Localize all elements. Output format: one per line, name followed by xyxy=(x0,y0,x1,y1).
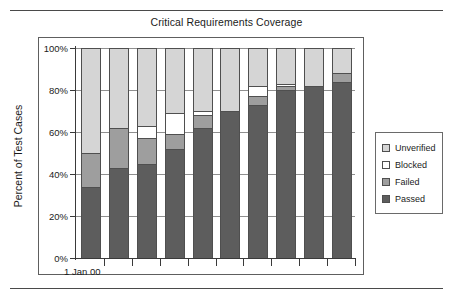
bar-stack[interactable] xyxy=(109,48,129,258)
page-rule-top xyxy=(10,10,443,11)
y-axis-tick-labels: 0%20%40%60%80%100% xyxy=(22,0,68,301)
bar-stack[interactable] xyxy=(165,48,185,258)
bar-segment-unverified[interactable] xyxy=(165,48,185,113)
bar-stack[interactable] xyxy=(193,48,213,258)
legend-swatch-icon xyxy=(382,178,390,186)
bar-segment-passed[interactable] xyxy=(193,128,213,258)
legend-label: Unverified xyxy=(395,143,436,153)
y-axis-tick-mark xyxy=(70,216,75,217)
x-axis-tick-mark xyxy=(299,259,300,266)
bar-segment-blocked[interactable] xyxy=(165,113,185,134)
bar-segment-failed[interactable] xyxy=(193,115,213,128)
legend-item-passed[interactable]: Passed xyxy=(382,190,438,207)
legend-item-blocked[interactable]: Blocked xyxy=(382,156,438,173)
x-axis-tick-mark xyxy=(160,259,161,266)
y-axis-tick-label: 100% xyxy=(24,43,68,54)
bar-segment-passed[interactable] xyxy=(137,164,157,259)
x-axis-tick-mark xyxy=(132,259,133,266)
x-axis-tick-mark xyxy=(355,259,356,266)
plot-area xyxy=(76,48,355,258)
x-axis-caption: 1 Jan 00 xyxy=(64,266,100,277)
legend-label: Blocked xyxy=(395,160,427,170)
y-axis-tick-mark xyxy=(70,258,75,259)
legend-item-failed[interactable]: Failed xyxy=(382,173,438,190)
legend-item-unverified[interactable]: Unverified xyxy=(382,139,438,156)
bar-segment-passed[interactable] xyxy=(109,168,129,258)
legend-label: Failed xyxy=(395,177,420,187)
bar-segment-passed[interactable] xyxy=(165,149,185,258)
bar-segment-unverified[interactable] xyxy=(137,48,157,126)
x-axis-tick-mark xyxy=(188,259,189,266)
bar-stack[interactable] xyxy=(81,48,101,258)
y-axis-line xyxy=(75,46,76,260)
y-axis-tick-label: 80% xyxy=(24,85,68,96)
legend-swatch-icon xyxy=(382,144,390,152)
x-axis-tick-mark xyxy=(243,259,244,266)
bar-segment-passed[interactable] xyxy=(276,90,296,258)
y-axis-tick-label: 0% xyxy=(24,253,68,264)
bar-segment-passed[interactable] xyxy=(332,82,352,258)
y-axis-tick-mark xyxy=(70,90,75,91)
bar-segment-failed[interactable] xyxy=(109,128,129,168)
x-axis-tick-mark xyxy=(327,259,328,266)
bar-segment-passed[interactable] xyxy=(220,111,240,258)
bar-stack[interactable] xyxy=(248,48,268,258)
bar-segment-failed[interactable] xyxy=(165,134,185,149)
bar-segment-unverified[interactable] xyxy=(304,48,324,86)
bar-segment-unverified[interactable] xyxy=(193,48,213,111)
bar-segment-unverified[interactable] xyxy=(81,48,101,153)
bar-segment-failed[interactable] xyxy=(137,138,157,163)
bar-segment-blocked[interactable] xyxy=(248,86,268,97)
y-axis-tick-label: 40% xyxy=(24,169,68,180)
x-axis-tick-mark xyxy=(271,259,272,266)
bar-segment-unverified[interactable] xyxy=(109,48,129,128)
bar-segment-unverified[interactable] xyxy=(332,48,352,73)
bar-segment-passed[interactable] xyxy=(248,105,268,258)
bar-segment-unverified[interactable] xyxy=(248,48,268,86)
bar-segment-failed[interactable] xyxy=(248,96,268,104)
bar-stack[interactable] xyxy=(332,48,352,258)
page-rule-bottom xyxy=(10,288,443,289)
y-axis-tick-label: 20% xyxy=(24,211,68,222)
bar-segment-blocked[interactable] xyxy=(137,126,157,139)
bar-segment-unverified[interactable] xyxy=(220,48,240,111)
y-axis-tick-mark xyxy=(70,132,75,133)
bar-stack[interactable] xyxy=(304,48,324,258)
y-axis-tick-label: 60% xyxy=(24,127,68,138)
bar-segment-failed[interactable] xyxy=(81,153,101,187)
y-axis-tick-mark xyxy=(70,174,75,175)
bar-stack[interactable] xyxy=(276,48,296,258)
legend-label: Passed xyxy=(395,194,425,204)
bar-stack[interactable] xyxy=(137,48,157,258)
bar-stack[interactable] xyxy=(220,48,240,258)
y-axis-tick-mark xyxy=(70,48,75,49)
x-axis-tick-mark xyxy=(216,259,217,266)
bar-segment-passed[interactable] xyxy=(304,86,324,258)
bar-segment-failed[interactable] xyxy=(332,73,352,81)
bar-segment-unverified[interactable] xyxy=(276,48,296,84)
chart-legend: UnverifiedBlockedFailedPassed xyxy=(375,132,443,214)
bar-segment-passed[interactable] xyxy=(81,187,101,258)
legend-swatch-icon xyxy=(382,161,390,169)
legend-swatch-icon xyxy=(382,195,390,203)
x-axis-tick-mark xyxy=(104,259,105,266)
